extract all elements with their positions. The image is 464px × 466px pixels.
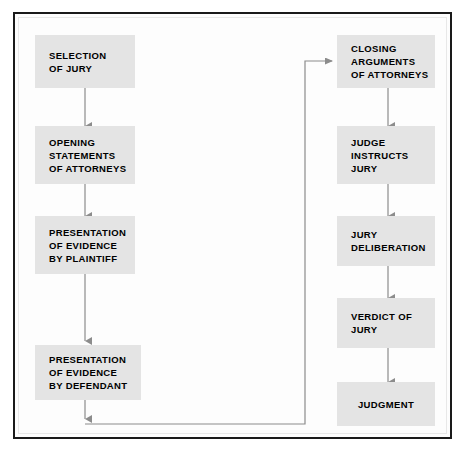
node-evidence-defendant[interactable]: PRESENTATION OF EVIDENCE BY DEFENDANT	[35, 345, 141, 400]
node-line: CLOSING	[351, 42, 429, 55]
node-line: SELECTION	[49, 49, 129, 62]
flowchart-canvas: SELECTION OF JURY OPENING STATEMENTS OF …	[0, 0, 464, 466]
node-line: JURY	[351, 228, 429, 241]
node-line: OF EVIDENCE	[49, 239, 129, 252]
node-line: OPENING	[49, 136, 129, 149]
node-line: JURY	[351, 162, 429, 175]
node-judge-instructs-jury[interactable]: JUDGE INSTRUCTS JURY	[337, 126, 435, 184]
node-line: PRESENTATION	[49, 226, 129, 239]
node-line: JUDGE	[351, 136, 429, 149]
node-line: OF ATTORNEYS	[49, 162, 129, 175]
node-judgment[interactable]: JUDGMENT	[337, 382, 435, 426]
node-jury-deliberation[interactable]: JURY DELIBERATION	[337, 216, 435, 266]
node-line: OF ATTORNEYS	[351, 68, 429, 81]
node-verdict-of-jury[interactable]: VERDICT OF JURY	[337, 298, 435, 348]
node-closing-arguments[interactable]: CLOSING ARGUMENTS OF ATTORNEYS	[337, 35, 435, 88]
node-line: DELIBERATION	[351, 241, 429, 254]
node-line: PRESENTATION	[49, 353, 135, 366]
node-line: BY DEFENDANT	[49, 379, 135, 392]
node-evidence-plaintiff[interactable]: PRESENTATION OF EVIDENCE BY PLAINTIFF	[35, 216, 135, 274]
node-line: JURY	[351, 323, 429, 336]
node-line: INSTRUCTS	[351, 149, 429, 162]
node-line: BY PLAINTIFF	[49, 252, 129, 265]
node-selection-of-jury[interactable]: SELECTION OF JURY	[35, 35, 135, 88]
node-line: STATEMENTS	[49, 149, 129, 162]
node-opening-statements[interactable]: OPENING STATEMENTS OF ATTORNEYS	[35, 126, 135, 184]
node-line: JUDGMENT	[358, 398, 414, 411]
node-line: VERDICT OF	[351, 310, 429, 323]
node-line: OF EVIDENCE	[49, 366, 135, 379]
node-line: OF JURY	[49, 62, 129, 75]
node-line: ARGUMENTS	[351, 55, 429, 68]
